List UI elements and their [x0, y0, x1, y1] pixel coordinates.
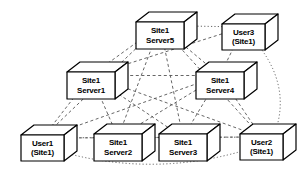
box-3d-icon [21, 125, 79, 163]
node-user2[interactable]: User2(Site1) [240, 124, 296, 160]
box-front-face [159, 134, 207, 161]
box-3d-icon [222, 14, 280, 52]
network-nodes-layer: Site1Server5User3(Site1)Site1Server1Site… [0, 0, 302, 178]
box-front-face [94, 134, 142, 161]
node-server1[interactable]: Site1Server1 [67, 62, 128, 99]
box-3d-icon [240, 124, 298, 162]
box-front-face [222, 24, 265, 50]
node-user1[interactable]: User1(Site1) [21, 125, 77, 161]
box-3d-icon [196, 62, 259, 101]
node-user3[interactable]: User3(Site1) [222, 14, 278, 50]
box-3d-icon [159, 124, 222, 163]
box-front-face [67, 72, 115, 99]
node-server2[interactable]: Site1Server2 [94, 124, 155, 161]
box-front-face [21, 135, 64, 161]
box-3d-icon [94, 124, 157, 163]
node-server5[interactable]: Site1Server5 [136, 12, 197, 49]
box-3d-icon [136, 12, 199, 51]
node-server4[interactable]: Site1Server4 [196, 62, 257, 99]
node-server3[interactable]: Site1Server3 [159, 124, 220, 161]
box-front-face [136, 22, 184, 49]
box-3d-icon [67, 62, 130, 101]
box-front-face [196, 72, 244, 99]
box-front-face [240, 134, 283, 160]
network-topology-diagram: Site1Server5User3(Site1)Site1Server1Site… [0, 0, 302, 178]
